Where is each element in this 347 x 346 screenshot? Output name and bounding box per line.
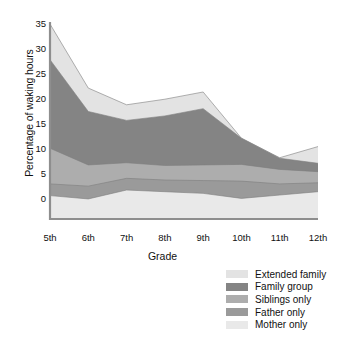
- chart-page: Percentage of waking hours 35 30 25 20 1…: [0, 0, 347, 346]
- legend-item[interactable]: Siblings only: [226, 293, 347, 306]
- legend-item[interactable]: Extended family: [226, 268, 347, 281]
- legend-swatch-icon: [226, 308, 248, 316]
- x-tick-label: 5th: [33, 232, 67, 243]
- x-tick-label: 10th: [224, 232, 258, 243]
- x-axis-ticks: 5th6th7th8th9th10th11th12th: [0, 232, 347, 248]
- x-axis-title-wrap: Grade: [0, 250, 347, 262]
- legend-item[interactable]: Mother only: [226, 318, 347, 331]
- legend-swatch-icon: [226, 283, 248, 291]
- x-tick-label: 7th: [110, 232, 144, 243]
- x-tick-label: 11th: [263, 232, 297, 243]
- chart-legend: Extended familyFamily groupSiblings only…: [226, 268, 347, 331]
- legend-swatch-icon: [226, 295, 248, 303]
- x-tick-label: 6th: [71, 232, 105, 243]
- plot-canvas: [0, 0, 347, 232]
- x-tick-label: 12th: [301, 232, 335, 243]
- legend-swatch-icon: [226, 321, 248, 329]
- series-layer: [50, 24, 318, 219]
- legend-item-label: Mother only: [255, 319, 307, 330]
- x-tick-label: 8th: [148, 232, 182, 243]
- legend-swatch-icon: [226, 270, 248, 278]
- legend-item-label: Family group: [255, 281, 313, 292]
- legend-item[interactable]: Father only: [226, 306, 347, 319]
- legend-item-label: Extended family: [255, 269, 326, 280]
- legend-item[interactable]: Family group: [226, 281, 347, 294]
- stacked-area-chart: Percentage of waking hours 35 30 25 20 1…: [0, 0, 347, 270]
- x-tick-label: 9th: [186, 232, 220, 243]
- legend-item-label: Siblings only: [255, 294, 311, 305]
- legend-item-label: Father only: [255, 307, 305, 318]
- x-axis-title: Grade: [148, 250, 177, 262]
